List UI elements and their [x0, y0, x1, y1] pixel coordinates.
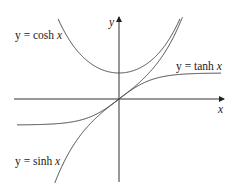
tanh-label: y = tanh x [176, 60, 223, 73]
y-axis-label: y [108, 16, 115, 29]
hyperbolic-functions-graph: y = cosh x y = tanh x y = sinh x y x [0, 0, 233, 193]
x-axis-label: x [217, 103, 224, 115]
sinh-label: y = sinh x [15, 155, 61, 168]
cosh-label: y = cosh x [15, 29, 63, 42]
